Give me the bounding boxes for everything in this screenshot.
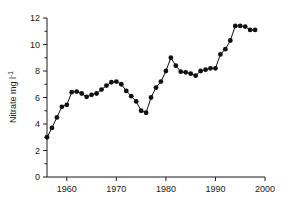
x-tick-label: 1970 [106,184,126,194]
data-point [129,94,134,99]
y-tick-label: 0 [35,172,40,182]
data-point [139,108,144,113]
y-tick-label: 12 [30,13,40,23]
y-axis-title-text: Nitrate mg l-1 [7,71,19,123]
chart-canvas: 024681012 19601970198019902000 Nitrate m… [0,0,299,205]
data-point [188,71,193,76]
y-tick-label: 4 [35,119,40,129]
x-tick-label: 1990 [205,184,225,194]
y-axis-title-superscript: -1 [7,71,14,77]
x-tick-label: 1980 [156,184,176,194]
data-point [168,55,173,60]
data-point [94,91,99,96]
y-tick-label: 6 [35,93,40,103]
data-point [104,83,109,88]
data-point [154,85,159,90]
nitrate-time-series-figure: 024681012 19601970198019902000 Nitrate m… [0,0,299,205]
data-point [74,89,79,94]
data-point [164,69,169,74]
data-point [198,69,203,74]
data-point [178,69,183,74]
data-point [149,95,154,100]
x-tick-label: 1960 [57,184,77,194]
data-point [238,24,243,29]
y-tick-label: 8 [35,66,40,76]
data-point [233,24,238,29]
y-tick-label: 10 [30,40,40,50]
y-axis-title: Nitrate mg l-1 [7,71,19,123]
data-point [203,67,208,72]
data-point [228,38,233,43]
data-point [79,91,84,96]
data-point [84,94,89,99]
data-point [218,52,223,57]
data-point [50,126,55,131]
data-point [109,80,114,85]
data-point [55,115,60,120]
data-point [248,28,253,33]
data-point [208,66,213,71]
data-point [89,92,94,97]
x-tick-label: 2000 [255,184,275,194]
data-point [193,73,198,78]
data-point [69,90,74,95]
data-point [64,102,69,107]
data-point [144,110,149,115]
y-axis-title-group: Nitrate mg l-1 [7,71,19,123]
data-point [223,47,228,52]
data-point [183,70,188,75]
data-point [99,87,104,92]
data-point [213,66,218,71]
data-point [45,135,50,140]
data-point [119,82,124,87]
data-point [114,79,119,84]
data-point [173,63,178,68]
data-point [159,79,164,84]
data-point [124,88,129,93]
data-point [253,28,258,33]
data-point [134,99,139,104]
data-point [59,104,64,109]
y-tick-label: 2 [35,146,40,156]
data-point [243,24,248,29]
